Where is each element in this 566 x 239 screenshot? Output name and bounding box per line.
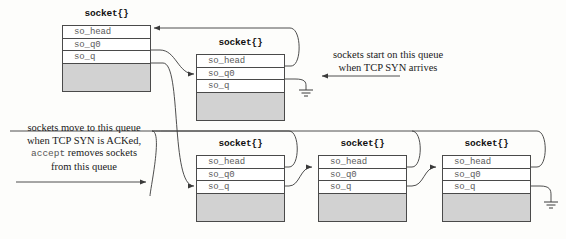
socket-remainder-block — [63, 64, 150, 91]
socket-remainder-block — [319, 194, 406, 221]
socket-remainder-block — [197, 194, 284, 221]
completed-queue-note-line-4: from this queue — [8, 161, 160, 174]
field-so-q: so_q — [197, 181, 284, 194]
completed-queue-note-line-1: sockets move to this queue — [8, 122, 160, 135]
socket-body: so_head so_q0 so_q — [196, 155, 285, 222]
field-so-q: so_q — [319, 181, 406, 194]
field-so-head: so_head — [197, 55, 284, 68]
socket-body: so_head so_q0 so_q — [318, 155, 407, 222]
ground-symbol-incomplete — [299, 90, 313, 96]
accept-call-label: accept — [31, 148, 65, 159]
socket-title: socket{} — [196, 37, 285, 48]
socket-queue-diagram: socket{} so_head so_q0 so_q socket{} so_… — [0, 0, 566, 239]
field-so-q0: so_q0 — [197, 169, 284, 182]
field-so-q0: so_q0 — [197, 68, 284, 81]
socket-body: so_head so_q0 so_q — [62, 25, 151, 92]
field-so-head: so_head — [319, 156, 406, 169]
incomplete-queue-note-line-2: when TCP SYN arrives — [312, 62, 464, 75]
socket-title: socket{} — [442, 138, 531, 149]
incomplete-queue-note: sockets start on this queue when TCP SYN… — [312, 49, 464, 74]
completed-queue-note-line-2: when TCP SYN is ACKed, — [8, 135, 160, 148]
socket-title: socket{} — [62, 8, 151, 19]
field-so-q: so_q — [443, 181, 530, 194]
incomplete-queue-note-line-1: sockets start on this queue — [312, 49, 464, 62]
socket-body: so_head so_q0 so_q — [196, 54, 285, 121]
socket-title: socket{} — [196, 138, 285, 149]
field-so-head: so_head — [63, 26, 150, 39]
field-so-q0: so_q0 — [63, 39, 150, 52]
field-so-q: so_q — [63, 51, 150, 64]
socket-body: so_head so_q0 so_q — [442, 155, 531, 222]
completed-queue-note-line-3: accept removes sockets — [8, 147, 160, 161]
socket-remainder-block — [197, 93, 284, 120]
ground-symbol-completed3 — [544, 202, 558, 208]
field-so-q: so_q — [197, 80, 284, 93]
field-so-head: so_head — [443, 156, 530, 169]
completed-queue-note-line-3-rest: removes sockets — [65, 147, 137, 158]
socket-title: socket{} — [318, 138, 407, 149]
field-so-q0: so_q0 — [319, 169, 406, 182]
socket-remainder-block — [443, 194, 530, 221]
field-so-q0: so_q0 — [443, 169, 530, 182]
field-so-head: so_head — [197, 156, 284, 169]
completed-queue-note: sockets move to this queue when TCP SYN … — [8, 122, 160, 173]
